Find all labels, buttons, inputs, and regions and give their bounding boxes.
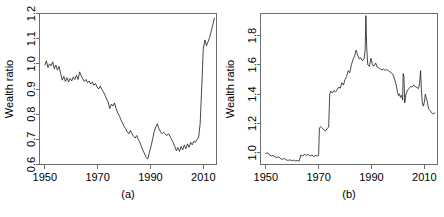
x-tick-label: 1990 <box>359 171 383 183</box>
y-tick-label: 1.4 <box>246 86 258 101</box>
x-axis-a: 1950197019902010 <box>33 165 216 183</box>
x-axis-b: 1950197019902010 <box>254 165 437 183</box>
y-tick-label: 1.1 <box>25 31 37 46</box>
x-tick-label: 1970 <box>85 171 109 183</box>
y-axis-title-a: Wealth ratio <box>3 60 15 119</box>
y-tick-label: 0.7 <box>25 132 37 147</box>
y-tick-label: 1.8 <box>246 28 258 43</box>
y-tick-label: 1.0 <box>25 56 37 71</box>
y-tick-label: 0.8 <box>25 107 37 122</box>
y-axis-a: 0.60.70.80.91.01.11.2 <box>25 6 39 172</box>
chart-panel-b: 1.01.21.41.61.8 1950197019902010 Wealth … <box>222 0 444 217</box>
x-tick-label: 1990 <box>138 171 162 183</box>
plot-frame-a <box>40 14 217 165</box>
chart-panel-a: 0.60.70.80.91.01.11.2 1950197019902010 W… <box>0 0 222 217</box>
y-axis-title-b: Wealth ratio <box>224 60 236 119</box>
y-axis-b: 1.01.21.41.61.8 <box>246 28 260 161</box>
y-tick-label: 1.2 <box>246 116 258 131</box>
data-line-b <box>266 16 435 162</box>
data-line-a <box>45 18 215 159</box>
x-tick-label: 2010 <box>191 171 215 183</box>
y-tick-label: 1.0 <box>246 145 258 160</box>
y-tick-label: 0.9 <box>25 81 37 96</box>
x-tick-label: 1950 <box>254 171 278 183</box>
x-tick-label: 1970 <box>306 171 330 183</box>
x-tick-label: 2010 <box>412 171 436 183</box>
panel-caption-a: (a) <box>121 188 134 200</box>
figure-container: 0.60.70.80.91.01.11.2 1950197019902010 W… <box>0 0 444 217</box>
plot-frame-b <box>261 14 438 165</box>
y-tick-label: 1.6 <box>246 57 258 72</box>
y-tick-label: 1.2 <box>25 6 37 21</box>
x-tick-label: 1950 <box>33 171 57 183</box>
chart-svg-b: 1.01.21.41.61.8 1950197019902010 Wealth … <box>222 0 444 217</box>
panel-caption-b: (b) <box>342 188 355 200</box>
chart-svg-a: 0.60.70.80.91.01.11.2 1950197019902010 W… <box>0 0 222 217</box>
